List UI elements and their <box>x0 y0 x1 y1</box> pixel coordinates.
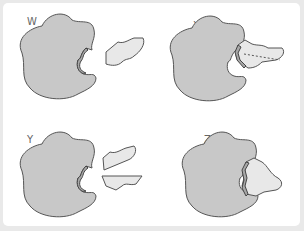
panel-y: Y <box>20 132 142 217</box>
panel-label-w: W <box>27 16 37 27</box>
panel-x: X <box>170 16 283 101</box>
panel-w: W <box>20 14 144 99</box>
panel-z: Z <box>182 132 281 217</box>
product-fragment-bottom <box>102 176 142 190</box>
substrate-w <box>106 38 144 65</box>
panel-label-y: Y <box>26 134 34 145</box>
product-fragment-top <box>103 146 136 170</box>
enzyme-x <box>170 16 246 101</box>
diagram-canvas: W X Y Z <box>0 0 304 231</box>
